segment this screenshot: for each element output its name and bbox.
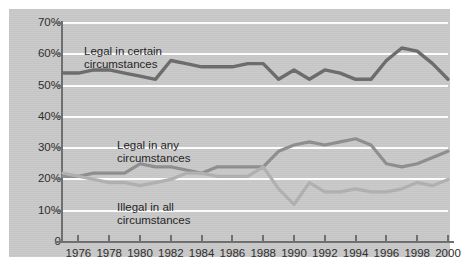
series-lines <box>9 9 450 257</box>
x-axis-tick <box>108 235 110 242</box>
x-axis-tick <box>385 235 387 242</box>
series-label-illegal-in-all-circumstances: Illegal in all circumstances <box>117 201 191 227</box>
x-axis-tick <box>447 235 449 242</box>
x-axis-tick <box>416 235 418 242</box>
x-axis-tick <box>170 235 172 242</box>
series-label-line2: circumstances <box>84 58 162 71</box>
chart-panel: 010%20%30%40%50%60%70% 19761978198019821… <box>9 9 450 257</box>
series-label-line1: Legal in certain <box>84 45 162 58</box>
series-label-line2: circumstances <box>117 152 191 165</box>
x-axis-tick <box>293 235 295 242</box>
series-label-line2: circumstances <box>117 214 191 227</box>
series-label-legal-in-certain-circumstances: Legal in certain circumstances <box>84 45 162 71</box>
series-label-line1: Illegal in all <box>117 201 191 214</box>
x-axis-tick <box>355 235 357 242</box>
series-label-line1: Legal in any <box>117 139 191 152</box>
series-label-legal-in-any-circumstances: Legal in any circumstances <box>117 139 191 165</box>
x-axis-line <box>55 241 454 243</box>
x-axis-tick <box>231 235 233 242</box>
x-axis-tick <box>201 235 203 242</box>
x-axis-tick <box>324 235 326 242</box>
x-axis-tick <box>139 235 141 242</box>
x-axis-tick <box>77 235 79 242</box>
x-axis-tick-label: 2000 <box>428 247 466 259</box>
x-axis-tick <box>262 235 264 242</box>
